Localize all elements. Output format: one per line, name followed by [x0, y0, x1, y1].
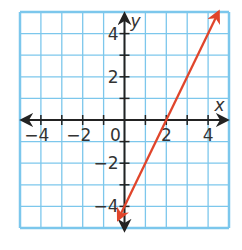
- x-tick-label: −4: [24, 125, 49, 145]
- y-tick-label: −4: [93, 196, 118, 216]
- coordinate-plane: −4−2024−4−224 x y: [0, 0, 242, 250]
- x-tick-label: 4: [203, 125, 214, 145]
- y-tick-label: 2: [108, 67, 119, 87]
- data-line: [118, 12, 218, 219]
- x-axis-label: x: [214, 95, 226, 115]
- x-tick-label: 0: [110, 125, 121, 145]
- y-axis-label: y: [130, 11, 142, 31]
- axes: [22, 14, 227, 230]
- x-tick-label: −2: [66, 125, 91, 145]
- y-tick-label: −2: [93, 153, 118, 173]
- y-tick-label: 4: [108, 24, 119, 44]
- line-y-equals-2x-minus-4: [118, 12, 218, 219]
